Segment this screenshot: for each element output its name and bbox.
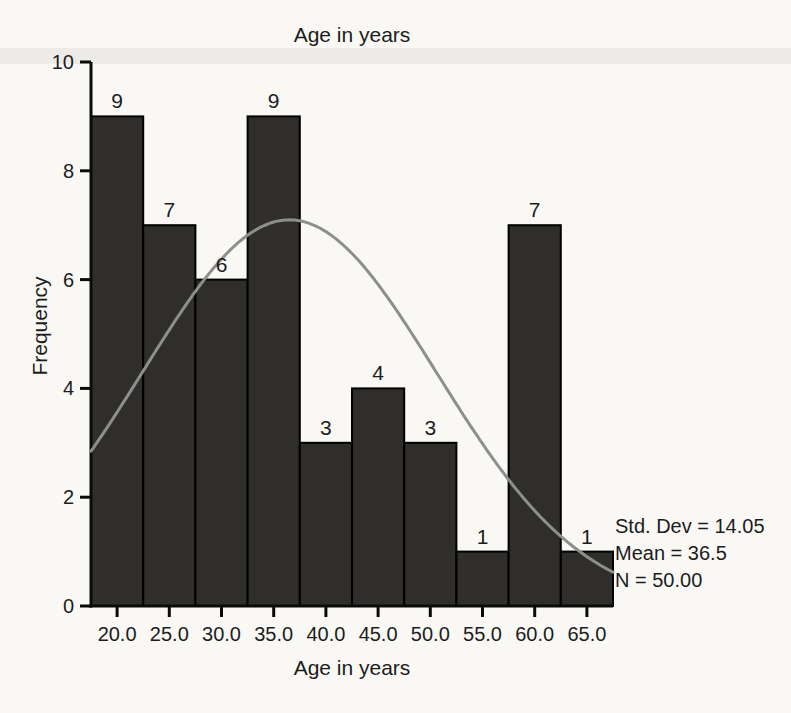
stat-std-dev: Std. Dev = 14.05	[615, 513, 765, 540]
y-tick-label: 4	[63, 377, 74, 399]
y-ticks-group: 0246810	[52, 51, 91, 617]
histogram-bar	[248, 116, 300, 606]
histogram-bar	[456, 552, 508, 606]
bar-value-label: 7	[163, 198, 175, 221]
y-tick-label: 8	[63, 160, 74, 182]
x-tick-label: 45.0	[359, 623, 398, 645]
scanned-chart-page: Age in years Frequency 024681020.025.030…	[0, 0, 791, 713]
histogram-canvas: 024681020.025.030.035.040.045.050.055.06…	[0, 0, 791, 713]
y-tick-label: 0	[63, 595, 74, 617]
y-tick-label: 10	[52, 51, 74, 73]
x-tick-label: 35.0	[254, 623, 293, 645]
histogram-bar	[509, 225, 561, 606]
y-tick-label: 6	[63, 269, 74, 291]
y-tick-label: 2	[63, 486, 74, 508]
x-tick-label: 50.0	[411, 623, 450, 645]
x-tick-label: 25.0	[150, 623, 189, 645]
histogram-bar	[561, 552, 613, 606]
x-axis-title: Age in years	[294, 656, 411, 680]
histogram-bar	[352, 388, 404, 606]
bar-value-label: 3	[424, 416, 436, 439]
histogram-bar	[143, 225, 195, 606]
stat-mean: Mean = 36.5	[615, 540, 765, 567]
stats-annotation: Std. Dev = 14.05 Mean = 36.5 N = 50.00	[615, 513, 765, 594]
histogram-bar	[300, 443, 352, 606]
x-tick-label: 20.0	[98, 623, 137, 645]
bar-value-label: 3	[320, 416, 332, 439]
histogram-bar	[91, 116, 143, 606]
bar-value-label: 7	[529, 198, 541, 221]
bar-value-label: 4	[372, 361, 384, 384]
histogram-bar	[195, 280, 247, 606]
x-tick-label: 55.0	[463, 623, 502, 645]
x-tick-label: 30.0	[202, 623, 241, 645]
x-tick-label: 40.0	[306, 623, 345, 645]
bars-group	[91, 116, 613, 606]
x-tick-label: 60.0	[515, 623, 554, 645]
bar-value-label: 9	[111, 89, 123, 112]
bar-value-label: 9	[268, 89, 280, 112]
x-tick-label: 65.0	[567, 623, 606, 645]
bar-value-label: 6	[216, 253, 228, 276]
bar-value-label: 1	[477, 525, 489, 548]
stat-n: N = 50.00	[615, 567, 765, 594]
x-ticks-group: 20.025.030.035.040.045.050.055.060.065.0	[98, 606, 607, 645]
histogram-bar	[404, 443, 456, 606]
bar-value-label: 1	[581, 525, 593, 548]
